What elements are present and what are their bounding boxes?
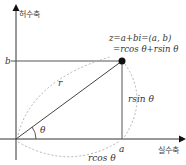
real-axis-label: 실수축: [158, 145, 179, 155]
r-label: r: [58, 78, 63, 88]
a-label: a: [119, 144, 124, 154]
theta-angle-arc: [32, 127, 36, 139]
equation-line-1: z=a+bi=(a, b): [108, 33, 171, 43]
theta-label: θ: [40, 125, 46, 135]
point-z: [119, 58, 126, 65]
imaginary-axis-label: 허수축: [19, 10, 40, 19]
rcos-label: rcos θ: [88, 153, 116, 163]
equation-line-2: =rcos θ+rsin θ: [113, 44, 179, 54]
rsin-label: rsin θ: [128, 94, 154, 104]
real-axis-arrow-icon: [179, 136, 186, 143]
b-label: b: [5, 56, 11, 66]
complex-plane-diagram: 허수축 실수축 b a r θ rsin θ rcos θ z=a+bi=(a,…: [0, 0, 186, 165]
r-dotted-arc: [18, 57, 110, 135]
